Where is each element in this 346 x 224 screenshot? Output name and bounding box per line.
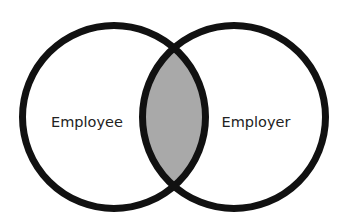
venn-diagram: Employee Employer — [0, 0, 346, 224]
employer-label: Employer — [222, 114, 291, 130]
employee-label: Employee — [51, 114, 123, 130]
